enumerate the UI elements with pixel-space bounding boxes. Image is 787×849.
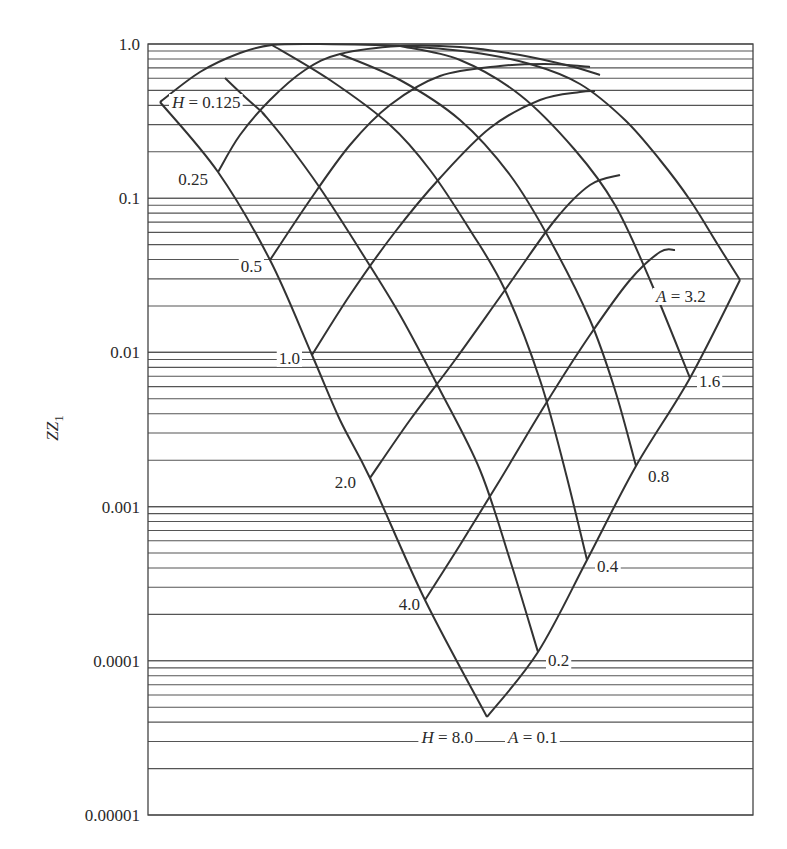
y-axis-label-sub: 1 xyxy=(51,415,66,422)
y-axis-tick-labels: 1.00.10.010.0010.00010.00001 xyxy=(85,35,140,825)
label-a-0-8: 0.8 xyxy=(648,467,669,486)
label-a-0-2: 0.2 xyxy=(548,651,569,670)
y-axis-label: ZZ1 xyxy=(43,415,66,440)
h-curve xyxy=(487,280,740,717)
a-curve xyxy=(400,46,690,378)
nomogram-chart: 1.00.10.010.0010.00010.00001 H = 0.1250.… xyxy=(0,0,787,849)
label-h-0-125: H = 0.125 xyxy=(171,93,241,112)
y-tick-label: 0.0001 xyxy=(93,652,140,671)
label-h-0-25: 0.25 xyxy=(178,170,208,189)
label-a-0-4: 0.4 xyxy=(597,557,619,576)
label-h-4-0: 4.0 xyxy=(399,595,420,614)
h-curve xyxy=(270,64,590,260)
nomogram-curves xyxy=(160,44,740,717)
log-gridlines xyxy=(148,44,753,815)
y-tick-label: 0.1 xyxy=(119,189,140,208)
y-tick-label: 0.001 xyxy=(102,498,140,517)
label-h-0-5: 0.5 xyxy=(241,257,262,276)
label-h-1-0: 1.0 xyxy=(279,349,300,368)
y-tick-label: 1.0 xyxy=(119,35,140,54)
label-a-0-1: A = 0.1 xyxy=(507,728,558,747)
label-a-3-2: A = 3.2 xyxy=(655,287,706,306)
a-curve xyxy=(272,45,587,560)
a-curve xyxy=(262,112,538,652)
label-a-1-6: 1.6 xyxy=(699,372,720,391)
y-tick-label: 0.00001 xyxy=(85,806,140,825)
h-curve xyxy=(425,249,675,600)
label-h-2-0: 2.0 xyxy=(335,473,356,492)
y-tick-label: 0.01 xyxy=(110,343,140,362)
plot-frame xyxy=(148,44,753,815)
label-h-8-0: H = 8.0 xyxy=(420,728,473,747)
y-axis-label-main: ZZ xyxy=(43,421,62,440)
